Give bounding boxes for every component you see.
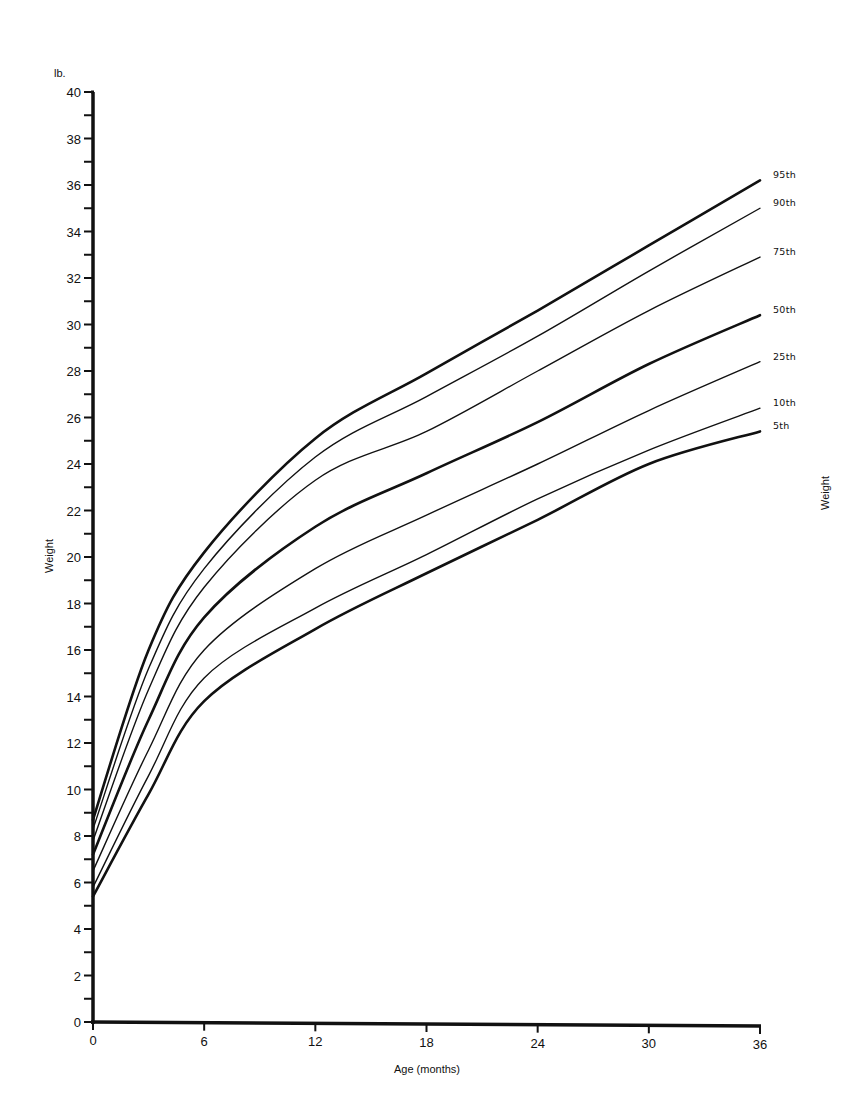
x-tick-label: 0 <box>89 1033 96 1048</box>
y-tick-label: 40 <box>67 85 81 100</box>
growth-chart: 0246810121416182022242628303234363840 06… <box>0 0 868 1118</box>
x-tick-label: 12 <box>308 1034 322 1049</box>
y-tick-label: 24 <box>67 457 81 472</box>
y-tick-label: 32 <box>67 271 81 286</box>
y-tick-label: 12 <box>67 736 81 751</box>
curve-90th <box>93 208 760 829</box>
y-tick-label: 30 <box>67 318 81 333</box>
label-90th: 90th <box>773 197 796 208</box>
y-tick-label: 4 <box>74 922 81 937</box>
x-tick-label: 30 <box>642 1036 656 1051</box>
label-25th: 25th <box>773 351 796 362</box>
x-tick-label: 6 <box>201 1034 208 1049</box>
y-tick-label: 26 <box>67 411 81 426</box>
curve-25th <box>93 362 760 871</box>
curve-10th <box>93 408 760 887</box>
x-tick-label: 18 <box>419 1035 433 1050</box>
label-5th: 5th <box>773 420 790 431</box>
y-tick-label: 28 <box>67 364 81 379</box>
y-axis: 0246810121416182022242628303234363840 <box>67 85 94 1030</box>
label-75th: 75th <box>773 246 796 257</box>
y-tick-label: 10 <box>67 783 81 798</box>
y-tick-label: 16 <box>67 643 81 658</box>
y-axis-title-right: Weight <box>819 476 831 510</box>
y-tick-label: 2 <box>74 969 81 984</box>
y-axis-title: Weight <box>43 539 55 573</box>
x-axis-title: Age (months) <box>394 1063 460 1075</box>
y-tick-label: 36 <box>67 178 81 193</box>
percentile-labels: 95th90th75th50th25th10th5th <box>773 169 796 431</box>
y-tick-label: 22 <box>67 504 81 519</box>
y-tick-label: 18 <box>67 597 81 612</box>
y-tick-label: 0 <box>74 1015 81 1030</box>
y-tick-label: 38 <box>67 132 81 147</box>
curve-75th <box>93 257 760 841</box>
label-95th: 95th <box>773 169 796 180</box>
y-tick-label: 8 <box>74 829 81 844</box>
curve-95th <box>93 180 760 819</box>
y-tick-label: 34 <box>67 225 81 240</box>
unit-label: lb. <box>54 67 66 79</box>
x-tick-label: 24 <box>530 1036 544 1051</box>
label-50th: 50th <box>773 304 796 315</box>
y-tick-label: 20 <box>67 550 81 565</box>
label-10th: 10th <box>773 397 796 408</box>
x-tick-label: 36 <box>753 1037 767 1052</box>
x-axis: 061218243036 <box>89 1022 767 1052</box>
y-tick-label: 14 <box>67 690 81 705</box>
percentile-curves <box>93 180 760 896</box>
y-tick-label: 6 <box>74 876 81 891</box>
